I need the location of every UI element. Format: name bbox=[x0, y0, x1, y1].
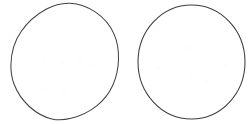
geometric-circle-right bbox=[138, 5, 245, 119]
drawing-canvas bbox=[0, 0, 251, 124]
two-circles-figure bbox=[0, 0, 251, 124]
hand-drawn-circle-left bbox=[11, 3, 119, 120]
